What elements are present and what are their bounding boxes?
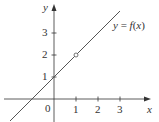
x-tick-label-2: 2	[95, 103, 101, 115]
y-axis-arrow-icon	[52, 4, 57, 11]
x-axis-arrow-icon	[144, 97, 151, 102]
origin-label: 0	[45, 102, 51, 114]
function-label-eq: =	[118, 19, 130, 31]
function-label-paren-close: )	[141, 19, 145, 32]
y-axis-label: y	[42, 1, 48, 13]
y-tick-label-3: 3	[42, 26, 48, 38]
function-label: y = f(x)	[112, 19, 145, 32]
y-tick-label-2: 2	[42, 48, 48, 60]
x-axis-label: x	[146, 103, 152, 115]
x-tick-label-1: 1	[73, 103, 79, 115]
y-tick-label-1: 1	[42, 70, 48, 82]
open-circle-hole	[74, 53, 78, 57]
function-graph: 0 1 2 3 1 2 3 x y y = f(x)	[0, 0, 159, 122]
x-tick-label-3: 3	[117, 103, 123, 115]
function-line	[10, 11, 120, 121]
